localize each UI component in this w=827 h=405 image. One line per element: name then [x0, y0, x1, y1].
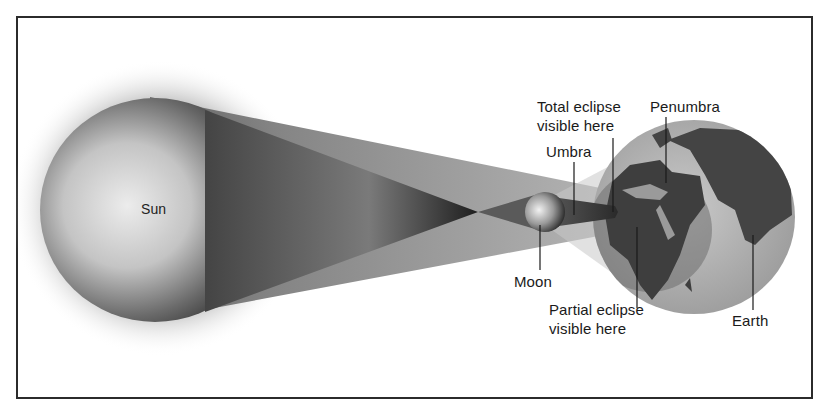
umbra-label: Umbra [546, 143, 592, 160]
total-eclipse-label-line2: visible here [537, 117, 614, 134]
total-eclipse-label-line1: Total eclipse [537, 98, 621, 115]
earth [588, 120, 795, 314]
moon-label: Moon [514, 273, 552, 290]
partial-eclipse-label-line2: visible here [549, 320, 626, 337]
moon [525, 192, 565, 232]
eclipse-diagram [0, 0, 827, 405]
penumbra-label: Penumbra [650, 98, 720, 115]
sun-label: Sun [141, 201, 166, 218]
earth-label: Earth [732, 312, 768, 329]
partial-eclipse-label-line1: Partial eclipse [549, 301, 644, 318]
